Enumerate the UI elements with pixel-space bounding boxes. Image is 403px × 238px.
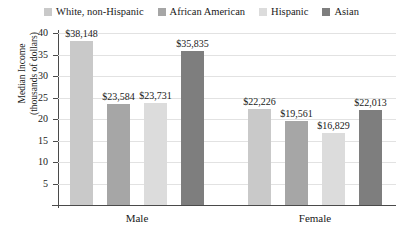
bar[interactable]: $22,226 — [248, 109, 271, 205]
y-axis-tick — [53, 141, 58, 142]
bar-value-label: $35,835 — [176, 39, 209, 49]
legend-item[interactable]: White, non-Hispanic — [44, 7, 143, 18]
x-axis-group-label: Male — [77, 213, 197, 224]
bar[interactable]: $38,148 — [70, 41, 93, 205]
legend-swatch-icon — [259, 8, 267, 16]
legend-item-label: White, non-Hispanic — [56, 7, 143, 18]
plot-area: 510152025303540 $38,148$23,584$23,731$35… — [58, 33, 396, 205]
gridline — [58, 76, 396, 77]
y-axis-tick — [53, 76, 58, 77]
gridline — [58, 55, 396, 56]
y-axis-tick-label: 35 — [18, 50, 48, 60]
legend-item-label: African American — [170, 7, 246, 18]
bar-value-label: $38,148 — [65, 29, 98, 39]
bar[interactable]: $23,731 — [144, 103, 167, 205]
chart-legend: White, non-HispanicAfrican AmericanHispa… — [0, 5, 403, 19]
bar[interactable]: $35,835 — [181, 51, 204, 205]
y-axis-tick-label: 25 — [18, 93, 48, 103]
bar-value-label: $23,731 — [139, 91, 172, 101]
bar-value-label: $19,561 — [280, 109, 313, 119]
y-axis-tick — [53, 98, 58, 99]
y-axis-tick-label: 15 — [18, 136, 48, 146]
bar[interactable]: $19,561 — [285, 121, 308, 205]
legend-swatch-icon — [158, 8, 166, 16]
bar-chart: White, non-HispanicAfrican AmericanHispa… — [0, 0, 403, 238]
y-axis-tick-label: 40 — [18, 28, 48, 38]
bar-value-label: $16,829 — [317, 121, 350, 131]
y-axis-tick — [53, 55, 58, 56]
y-axis-tick-label: 10 — [18, 157, 48, 167]
y-axis-tick-label: 20 — [18, 114, 48, 124]
bar-value-label: $22,226 — [243, 97, 276, 107]
legend-swatch-icon — [322, 8, 330, 16]
y-axis-tick — [53, 119, 58, 120]
bar[interactable]: $22,013 — [359, 110, 382, 205]
bar[interactable]: $23,584 — [107, 104, 130, 205]
bar[interactable]: $16,829 — [322, 133, 345, 205]
x-axis-line — [52, 205, 396, 206]
bar-value-label: $23,584 — [102, 92, 135, 102]
legend-item-label: Asian — [334, 7, 359, 18]
legend-item-label: Hispanic — [271, 7, 308, 18]
y-axis-tick — [53, 162, 58, 163]
y-axis-tick — [53, 184, 58, 185]
y-axis-tick-label: 5 — [18, 179, 48, 189]
bar-value-label: $22,013 — [354, 98, 387, 108]
x-axis-group-label: Female — [255, 213, 375, 224]
gridline — [58, 33, 396, 34]
y-axis-tick — [53, 33, 58, 34]
y-axis-tick-label: 30 — [18, 71, 48, 81]
legend-item[interactable]: Hispanic — [259, 7, 308, 18]
legend-swatch-icon — [44, 8, 52, 16]
legend-item[interactable]: Asian — [322, 7, 359, 18]
legend-item[interactable]: African American — [158, 7, 246, 18]
